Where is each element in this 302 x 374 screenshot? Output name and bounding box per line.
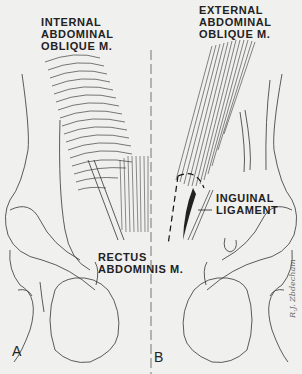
label-line: RECTUS	[98, 251, 183, 263]
illustration-drawing	[0, 0, 302, 374]
label-line: OBLIQUE M.	[199, 28, 272, 40]
inguinal-ligament-label: INGUINAL LIGAMENT	[216, 192, 278, 216]
panel-label-b: B	[154, 349, 163, 365]
artist-signature: R.J. Zbdecham	[288, 259, 297, 318]
external-oblique-label: EXTERNAL ABDOMINAL OBLIQUE M.	[199, 4, 272, 40]
label-line: LIGAMENT	[216, 204, 278, 216]
label-line: EXTERNAL	[199, 4, 272, 16]
internal-oblique-fibers	[45, 55, 132, 190]
rectus-abdominis-label: RECTUS ABDOMINIS M.	[98, 251, 183, 275]
inguinal-ring-shading	[183, 188, 196, 240]
label-line: ABDOMINAL	[41, 28, 114, 40]
external-oblique-fibers	[176, 40, 255, 186]
label-line: ABDOMINIS M.	[98, 263, 183, 275]
dashed-outline	[178, 174, 204, 188]
label-line: OBLIQUE M.	[41, 40, 114, 52]
label-line: ABDOMINAL	[199, 16, 272, 28]
rectus-fibers	[120, 156, 148, 232]
label-line: INGUINAL	[216, 192, 278, 204]
panel-label-a: A	[12, 343, 21, 359]
anatomy-figure: INTERNAL ABDOMINAL OBLIQUE M. EXTERNAL A…	[0, 0, 302, 374]
internal-oblique-label: INTERNAL ABDOMINAL OBLIQUE M.	[41, 16, 114, 52]
label-line: INTERNAL	[41, 16, 114, 28]
